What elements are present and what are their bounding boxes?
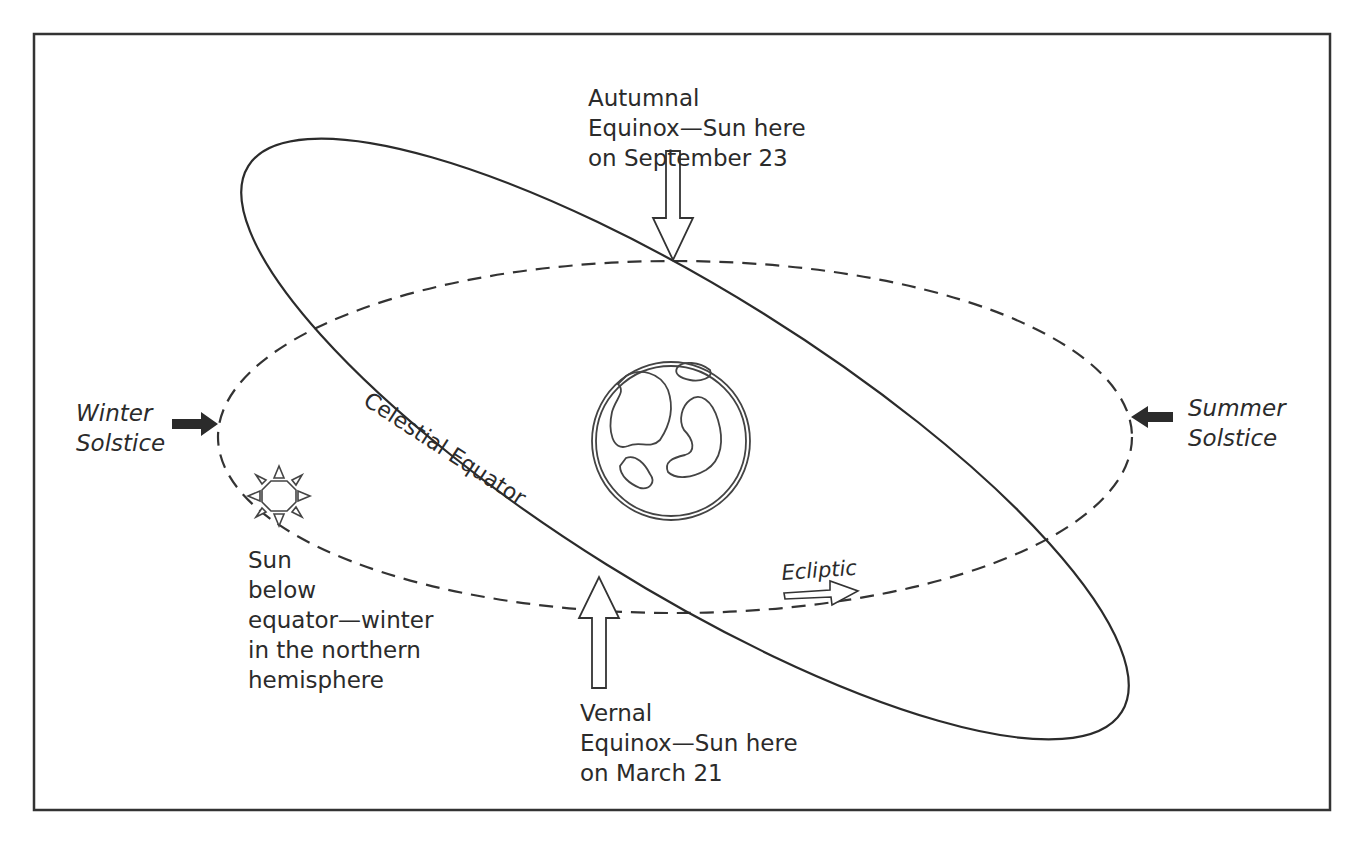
autumnal-equinox-label: Autumnal Equinox—Sun here on September 2… xyxy=(588,83,806,173)
vernal-line-2: Equinox—Sun here xyxy=(580,728,798,758)
vernal-line-1: Vernal xyxy=(580,698,798,728)
summer-line-2: Solstice xyxy=(1188,423,1286,453)
earth-globe-icon xyxy=(592,362,750,520)
winter-line-2: Solstice xyxy=(76,428,165,458)
summer-solstice-label: Summer Solstice xyxy=(1188,393,1286,453)
sun-note-line-5: hemisphere xyxy=(248,665,433,695)
sun-note-line-4: in the northern xyxy=(248,635,433,665)
autumnal-line-1: Autumnal xyxy=(588,83,806,113)
vernal-line-3: on March 21 xyxy=(580,758,798,788)
sun-note-line-3: equator—winter xyxy=(248,605,433,635)
ecliptic-direction-arrow-icon xyxy=(784,581,858,605)
vernal-equinox-arrow-icon xyxy=(579,577,619,688)
sun-note-line-1: Sun xyxy=(248,545,433,575)
vernal-equinox-label: Vernal Equinox—Sun here on March 21 xyxy=(580,698,798,788)
sun-note-label: Sun below equator—winter in the northern… xyxy=(248,545,433,695)
summer-solstice-arrow-icon xyxy=(1131,406,1173,428)
autumnal-line-2: Equinox—Sun here xyxy=(588,113,806,143)
summer-line-1: Summer xyxy=(1188,393,1286,423)
autumnal-line-3: on September 23 xyxy=(588,143,806,173)
winter-line-1: Winter xyxy=(76,398,165,428)
celestial-equator-label: Celestial Equator xyxy=(359,387,531,511)
sun-icon xyxy=(248,466,310,526)
winter-solstice-label: Winter Solstice xyxy=(76,398,165,458)
winter-solstice-arrow-icon xyxy=(172,412,218,436)
ecliptic-label: Ecliptic xyxy=(781,556,858,585)
sun-note-line-2: below xyxy=(248,575,433,605)
